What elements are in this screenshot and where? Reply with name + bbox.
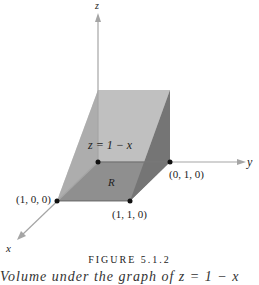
point-origin [96,160,101,165]
figure-caption-text: Volume under the graph of z = 1 − x [0,269,239,285]
x-axis-label: x [6,243,11,254]
region-label: R [108,177,115,188]
z-axis-label: z [95,1,99,11]
point-1-1-0 [128,199,133,204]
point-1-0-0 [55,199,60,204]
surface-label: z = 1 − x [88,139,132,151]
y-axis-arrow [237,159,246,165]
figure-caption-title: FIGURE 5.1.2 [0,254,259,265]
point-label-1-1-0: (1, 1, 0) [112,209,147,220]
z-axis-arrow [95,13,101,22]
point-0-1-0 [168,160,173,165]
point-label-0-1-0: (0, 1, 0) [169,169,204,180]
y-axis-label: y [247,156,252,168]
point-label-1-0-0: (1, 0, 0) [16,194,51,205]
